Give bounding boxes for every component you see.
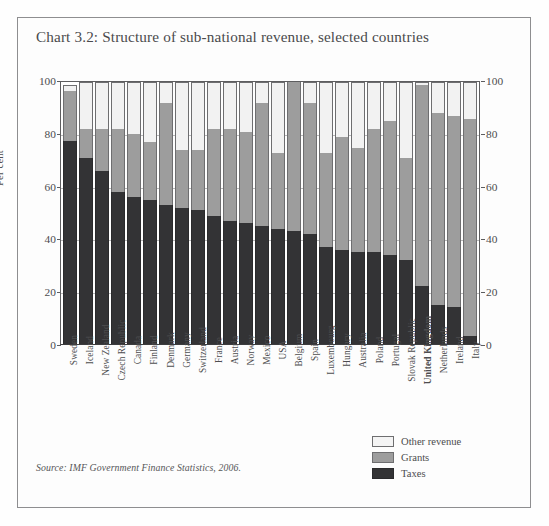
x-label-cell: France	[207, 348, 221, 444]
y-tick-label: 80	[486, 129, 512, 140]
bar-column[interactable]	[287, 82, 301, 344]
bar-column[interactable]	[271, 82, 285, 344]
bar-segment-taxes	[303, 234, 317, 344]
bar-column[interactable]	[175, 82, 189, 344]
x-label-cell: Slovak Republic	[400, 348, 414, 444]
x-label-cell: Italy	[464, 348, 478, 444]
y-tick-label: 100	[486, 76, 512, 87]
bar-column[interactable]	[367, 82, 381, 344]
bar-segment-other	[431, 82, 445, 113]
x-label-cell: Luxembourg	[319, 348, 333, 444]
y-axis-right: 020406080100	[486, 81, 516, 345]
y-tick-label: 0	[30, 340, 56, 351]
bar-column[interactable]	[111, 82, 125, 344]
bar-column[interactable]	[239, 82, 253, 344]
bar-segment-grants	[287, 82, 301, 231]
x-label-cell: Germany	[174, 348, 188, 444]
x-label-cell: USA	[271, 348, 285, 444]
bar-column[interactable]	[191, 82, 205, 344]
y-tick-mark	[481, 134, 485, 135]
plot-area	[60, 81, 480, 345]
y-tick-mark	[57, 345, 61, 346]
bar-segment-other	[191, 82, 205, 150]
x-label-cell: Ireland	[448, 348, 462, 444]
bar-column[interactable]	[335, 82, 349, 344]
x-label-cell: Sweden	[62, 348, 76, 444]
bar-column[interactable]	[415, 82, 429, 344]
legend-item-other[interactable]: Other revenue	[372, 434, 502, 448]
y-tick-label: 0	[486, 340, 512, 351]
bar-segment-grants	[223, 129, 237, 221]
x-label-cell: Portugal	[383, 348, 397, 444]
bar-segment-grants	[175, 150, 189, 208]
bar-segment-grants	[143, 142, 157, 200]
x-label-cell: Spain	[303, 348, 317, 444]
bar-segment-taxes	[95, 171, 109, 344]
bar-segment-taxes	[143, 200, 157, 344]
bar-segment-other	[207, 82, 221, 129]
bar-segment-other	[175, 82, 189, 150]
y-tick-mark	[481, 81, 485, 82]
bar-segment-grants	[127, 134, 141, 197]
y-tick-label: 20	[30, 287, 56, 298]
bar-segment-grants	[383, 121, 397, 255]
bar-column[interactable]	[127, 82, 141, 344]
y-tick-label: 20	[486, 287, 512, 298]
bar-column[interactable]	[351, 82, 365, 344]
x-label-cell: Norway	[239, 348, 253, 444]
x-label-cell: Finland	[142, 348, 156, 444]
legend-swatch-other	[372, 436, 394, 447]
legend-label: Taxes	[401, 468, 426, 479]
bar-segment-taxes	[367, 252, 381, 344]
bar-segment-other	[79, 82, 93, 129]
legend-label: Other revenue	[401, 436, 461, 447]
x-label-cell: Denmark	[158, 348, 172, 444]
bar-column[interactable]	[431, 82, 445, 344]
x-label-cell: Mexico	[255, 348, 269, 444]
bar-column[interactable]	[159, 82, 173, 344]
bar-column[interactable]	[223, 82, 237, 344]
legend-item-grants[interactable]: Grants	[372, 450, 502, 464]
bar-segment-taxes	[223, 221, 237, 344]
bar-column[interactable]	[399, 82, 413, 344]
bar-segment-other	[367, 82, 381, 129]
bar-segment-grants	[335, 137, 349, 250]
bar-segment-taxes	[239, 223, 253, 344]
x-label-cell: Austria	[223, 348, 237, 444]
bar-column[interactable]	[255, 82, 269, 344]
bar-segment-taxes	[287, 231, 301, 344]
bar-segment-grants	[255, 103, 269, 226]
x-label-cell: Czech Republic	[110, 348, 124, 444]
bar-segment-grants	[351, 148, 365, 253]
y-tick-mark	[481, 187, 485, 188]
bar-segment-grants	[367, 129, 381, 252]
bar-segment-grants	[95, 129, 109, 171]
y-tick-label: 40	[486, 234, 512, 245]
bar-column[interactable]	[79, 82, 93, 344]
bar-column[interactable]	[63, 82, 77, 344]
bar-segment-grants	[271, 153, 285, 229]
legend-item-taxes[interactable]: Taxes	[372, 466, 502, 480]
bar-segment-other	[111, 82, 125, 129]
bar-segment-grants	[463, 119, 477, 336]
bar-segment-other	[399, 82, 413, 158]
bar-column[interactable]	[95, 82, 109, 344]
bar-column[interactable]	[207, 82, 221, 344]
x-label-cell: Switzerland	[191, 348, 205, 444]
bar-segment-grants	[63, 91, 77, 141]
bar-segment-other	[351, 82, 365, 148]
bar-column[interactable]	[447, 82, 461, 344]
bar-segment-taxes	[79, 158, 93, 344]
bar-segment-other	[159, 82, 173, 103]
bar-segment-taxes	[255, 226, 269, 344]
legend-swatch-grants	[372, 452, 394, 463]
bar-column[interactable]	[319, 82, 333, 344]
bar-segment-other	[447, 82, 461, 116]
bar-column[interactable]	[463, 82, 477, 344]
bar-column[interactable]	[143, 82, 157, 344]
bar-segment-other	[127, 82, 141, 134]
bar-segment-taxes	[159, 205, 173, 344]
y-axis-left: 020406080100	[28, 81, 56, 345]
bar-column[interactable]	[383, 82, 397, 344]
bar-column[interactable]	[303, 82, 317, 344]
